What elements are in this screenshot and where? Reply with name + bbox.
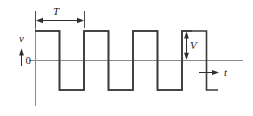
amplitude-dimension-group: V [184,32,198,60]
origin-label: 0 [26,54,32,66]
period-arrow-right-icon [77,18,84,23]
amplitude-arrow-down-icon [184,53,189,60]
v-axis-arrow-icon [19,49,24,56]
v-axis-label: v [19,32,24,44]
period-arrow-left-icon [36,18,43,23]
t-axis-label: t [224,66,228,78]
t-axis-label-group: t [199,66,228,78]
amplitude-arrow-up-icon [184,32,189,39]
amplitude-label: V [190,39,198,51]
t-axis-arrow-icon [212,70,219,75]
period-label: T [53,5,60,17]
waveform-canvas: T V v 0 t [0,0,253,116]
origin-label-group: 0 [26,54,32,66]
period-dimension-group: T [36,5,85,28]
square-wave-figure: T V v 0 t [0,0,253,116]
v-axis-label-group: v [19,32,24,66]
